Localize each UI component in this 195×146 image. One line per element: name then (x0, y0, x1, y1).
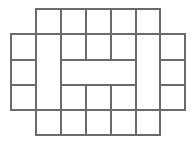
grid-line-group (11, 9, 185, 135)
figure-canvas (0, 0, 195, 146)
grid-polyomino-figure (0, 0, 195, 146)
